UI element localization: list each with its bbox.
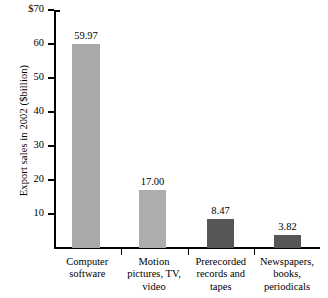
x-axis-category-line: pictures, TV, — [121, 268, 188, 280]
x-axis-category-line: tapes — [188, 281, 255, 293]
x-axis-category-line: Computer — [54, 256, 121, 268]
x-axis-category-label: Newspapers,books,periodicals — [254, 256, 320, 293]
bar-value-label: 59.97 — [60, 30, 112, 41]
bar — [139, 190, 166, 248]
x-axis-category-label: Prerecordedrecords andtapes — [188, 256, 255, 293]
x-axis-separator — [254, 248, 255, 255]
bar-value-label: 17.00 — [127, 176, 178, 187]
x-axis-category-label: Computersoftware — [54, 256, 121, 281]
x-axis-category-line: Newspapers, — [254, 256, 320, 268]
x-axis-category-line: Prerecorded — [188, 256, 255, 268]
x-axis-category-line: Motion — [121, 256, 188, 268]
x-axis-category-line: video — [121, 281, 188, 293]
bar-chart: Export sales in 2002 ($billion) 10203040… — [0, 0, 328, 298]
bars-layer: 59.9717.008.473.82 — [0, 0, 328, 298]
bar — [274, 235, 301, 248]
x-axis-category-line: books, — [254, 268, 320, 280]
bar-value-label: 3.82 — [262, 221, 313, 232]
x-axis-separator — [121, 248, 122, 255]
x-axis-category-line: periodicals — [254, 281, 320, 293]
bar — [207, 219, 234, 248]
bar-value-label: 8.47 — [195, 205, 246, 216]
x-axis-separator — [188, 248, 189, 255]
x-axis-category-line: software — [54, 268, 121, 280]
x-axis-category-label: Motionpictures, TV,video — [121, 256, 188, 293]
bar — [72, 44, 100, 248]
x-axis-category-line: records and — [188, 268, 255, 280]
